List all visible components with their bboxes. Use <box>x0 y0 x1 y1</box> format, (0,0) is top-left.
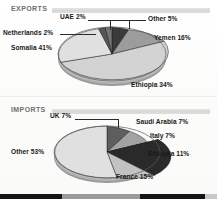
imports-label-other: Other 53% <box>11 149 44 156</box>
scanned-page: EXPORTS <box>0 0 217 199</box>
exports-label-uae: UAE 2% <box>60 14 86 21</box>
imports-section: IMPORTS <box>0 99 217 191</box>
imports-leader-uk <box>75 119 118 120</box>
exports-label-somalia: Somalia 41% <box>11 45 52 52</box>
exports-label-yemen: Yemen 16% <box>154 35 191 42</box>
exports-chart: UAE 2% Other 5% Yemen 16% Ethiopia 34% S… <box>0 0 217 99</box>
imports-chart: UK 7% Saudi Arabia 7% Italy 7% Ethiopia … <box>0 99 217 191</box>
exports-leader-uae <box>88 20 134 21</box>
exports-leader-uae-drop <box>110 20 111 30</box>
imports-label-saudi-arabia: Saudi Arabia 7% <box>136 119 188 126</box>
exports-leader-other <box>129 20 146 21</box>
imports-label-italy: Italy 7% <box>150 133 175 140</box>
section-divider <box>0 96 217 97</box>
imports-label-ethiopia: Ethiopia 11% <box>148 151 189 158</box>
exports-label-ethiopia: Ethiopia 34% <box>131 82 173 89</box>
imports-label-uk: UK 7% <box>50 113 71 120</box>
imports-label-france: France 15% <box>116 174 153 181</box>
exports-leader-netherlands <box>60 34 96 35</box>
exports-label-other: Other 5% <box>148 16 177 23</box>
exports-section: EXPORTS <box>0 0 217 99</box>
page-bottom-bar <box>0 194 217 199</box>
exports-leader-other-drop <box>129 20 130 29</box>
imports-leader-uk-drop <box>118 119 119 129</box>
exports-label-netherlands: Netherlands 2% <box>3 30 53 37</box>
